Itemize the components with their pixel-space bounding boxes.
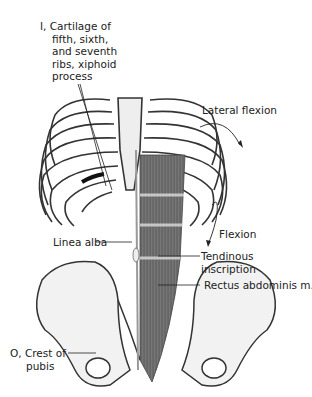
label-flexion: Flexion [219,228,256,241]
label-lateral-flexion: Lateral flexion [202,104,277,117]
rectus-abdominis-muscle [140,155,185,382]
label-insertion: I, Cartilage of fifth, sixth, and sevent… [40,20,117,83]
label-origin: O, Crest of pubis [10,347,66,372]
cartilage-highlight [82,174,104,182]
label-rectus-abdominis: Rectus abdominis m. [204,279,312,292]
label-tendinous-inscription: Tendinous inscription [201,250,256,275]
label-linea-alba: Linea alba [53,236,107,249]
rib-cage [39,98,226,226]
